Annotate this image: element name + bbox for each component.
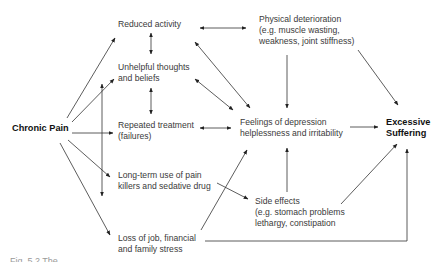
node-excessive-suffering: Excessive Suffering	[386, 117, 430, 139]
node-physical-deterioration: Physical deterioration (e.g. muscle wast…	[259, 14, 354, 47]
edge-pain-longterm	[68, 140, 110, 177]
edge-physical-suffering	[358, 50, 398, 105]
figure-caption: Fig. 5.2 The ...	[10, 256, 430, 262]
chronic-pain-diagram: Chronic Pain Reduced activity Unhelpful …	[0, 0, 440, 262]
node-chronic-pain: Chronic Pain	[12, 123, 69, 134]
node-reduced-activity: Reduced activity	[118, 19, 181, 30]
edge-side-suffering	[341, 144, 397, 204]
edge-pain-lossjob	[60, 143, 110, 235]
node-long-term-use: Long-term use of pain killers and sedati…	[118, 170, 211, 192]
node-side-effects: Side effects (e.g. stomach problems leth…	[255, 196, 345, 229]
edge-pain-unhelpful	[72, 79, 114, 122]
node-unhelpful-thoughts: Unhelpful thoughts and beliefs	[118, 62, 190, 84]
node-feelings-depression: Feelings of depression helplessness and …	[240, 117, 343, 139]
edge-longterm-side	[217, 183, 248, 199]
node-repeated-treatment: Repeated treatment (failures)	[118, 120, 194, 142]
edge-unhelpful-feelings	[195, 79, 233, 110]
edge-reduced-feelings	[195, 42, 250, 108]
node-loss-of-job: Loss of job, financial and family stress	[118, 233, 196, 255]
edge-pain-reduced	[67, 38, 115, 118]
